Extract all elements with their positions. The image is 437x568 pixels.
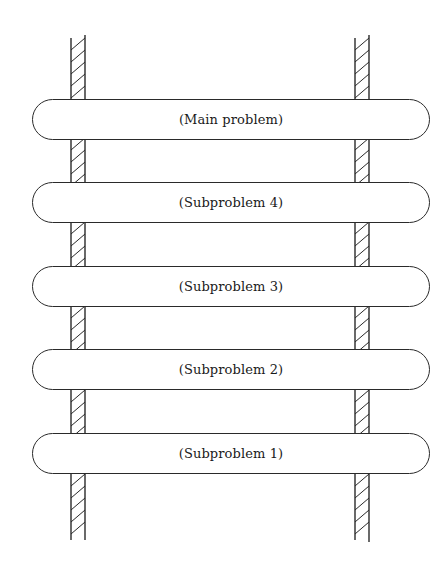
rung-subproblem-3: (Subproblem 3) — [32, 266, 430, 307]
rung-subproblem-2: (Subproblem 2) — [32, 349, 430, 390]
rung-label: (Main problem) — [179, 112, 283, 127]
rung-label: (Subproblem 3) — [179, 279, 283, 294]
rung-subproblem-4: (Subproblem 4) — [32, 182, 430, 223]
rung-label: (Subproblem 2) — [179, 362, 283, 377]
ladder-diagram: (Main problem) (Subproblem 4) (Subproble… — [0, 0, 437, 568]
rung-subproblem-1: (Subproblem 1) — [32, 433, 430, 474]
rung-label: (Subproblem 4) — [179, 195, 283, 210]
rung-label: (Subproblem 1) — [179, 446, 283, 461]
rung-main-problem: (Main problem) — [32, 99, 430, 140]
